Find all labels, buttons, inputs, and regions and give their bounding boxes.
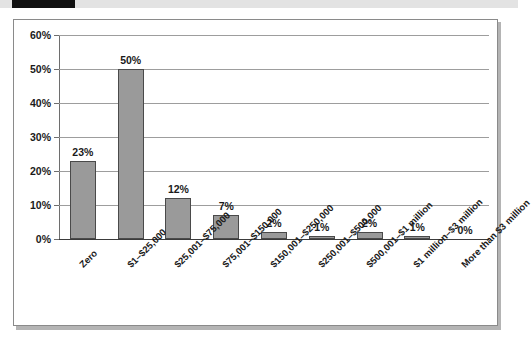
header-black-rule [12,0,75,8]
y-axis-tick-label: 10% [30,199,51,211]
bar[interactable] [118,69,144,239]
bar[interactable] [261,232,287,239]
x-axis-baseline [59,239,489,240]
y-axis-tick [54,35,59,36]
plot-area: 0%10%20%30%40%50%60% 23%50%12%7%2%1%2%1%… [59,35,489,239]
bar[interactable] [357,232,383,239]
bar-value-label: 23% [72,146,93,158]
y-axis-tick [54,171,59,172]
y-axis-tick-label: 60% [30,29,51,41]
y-axis-tick-label: 40% [30,97,51,109]
bar[interactable] [70,161,96,239]
bar[interactable] [165,198,191,239]
bar-value-label: 7% [219,200,234,212]
y-axis-tick-label: 0% [36,233,51,245]
y-axis-tick [54,69,59,70]
gridline [59,35,489,36]
bar[interactable] [309,236,335,239]
page-header-strip [0,0,518,8]
x-axis-category-label: Zero [77,247,99,269]
bar-value-label: 12% [168,183,189,195]
y-axis-tick-label: 30% [30,131,51,143]
header-gap [0,8,518,16]
y-axis-tick [54,137,59,138]
y-axis-tick [54,239,59,240]
bar-value-label: 50% [120,54,141,66]
chart-figure-frame: 0%10%20%30%40%50%60% 23%50%12%7%2%1%2%1%… [13,19,498,326]
y-axis-tick-label: 20% [30,165,51,177]
bar[interactable] [404,236,430,239]
y-axis-tick-label: 50% [30,63,51,75]
y-axis-tick [54,103,59,104]
y-axis-tick [54,205,59,206]
